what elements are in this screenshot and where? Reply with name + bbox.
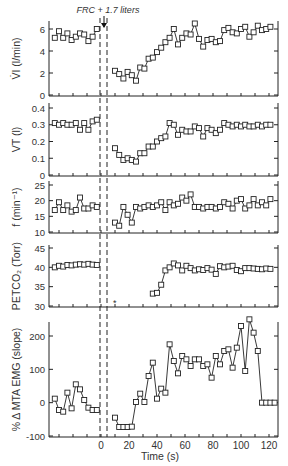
data-point [113, 415, 118, 420]
data-point [188, 32, 193, 37]
data-point [201, 44, 206, 49]
y-tick-label: 0.4 [32, 103, 45, 114]
data-point [78, 127, 83, 132]
figure: 0246V̇I (l/min)00.10.20.30.4VT (l)101520… [0, 0, 288, 466]
data-point [78, 387, 83, 392]
data-point [171, 122, 176, 127]
data-point [69, 406, 74, 411]
data-point [239, 324, 244, 329]
data-point [150, 360, 155, 365]
data-point [52, 208, 57, 213]
data-point [78, 195, 83, 200]
data-point [184, 357, 189, 362]
data-point [94, 204, 99, 209]
data-point [218, 39, 223, 44]
data-point [142, 66, 147, 71]
y-tick-label: 35 [34, 281, 45, 292]
y-tick-label: 30 [34, 301, 45, 312]
data-point [52, 35, 57, 40]
data-point [138, 391, 143, 396]
y-tick-label: 40 [34, 262, 45, 273]
data-point [82, 121, 87, 126]
panel-2: 00.10.20.30.4VT (l) [10, 103, 278, 181]
data-point [268, 24, 273, 29]
data-point [230, 365, 235, 370]
data-point [61, 409, 66, 414]
y-tick-label: 6 [40, 24, 45, 35]
data-point [159, 200, 164, 205]
x-tick-label: 100 [233, 440, 250, 451]
data-point [243, 24, 248, 29]
x-axis-ticks: 020406080100120 [98, 440, 278, 451]
data-point [163, 208, 168, 213]
data-point [155, 396, 160, 401]
data-point [94, 408, 99, 413]
data-point [218, 127, 223, 132]
data-point [239, 197, 244, 202]
data-point [113, 146, 118, 151]
x-tick-label: 80 [207, 440, 219, 451]
y-axis-label: f (min⁻¹) [10, 187, 22, 226]
data-point [121, 76, 126, 81]
data-point [65, 390, 70, 395]
y-tick-label: 200 [29, 331, 45, 342]
data-point [159, 282, 164, 287]
data-point [155, 290, 160, 295]
data-point [176, 132, 181, 137]
data-point [213, 354, 218, 359]
data-point [197, 36, 202, 41]
y-tick-label: 25 [34, 180, 45, 191]
data-point [272, 400, 277, 405]
y-tick-label: 0.1 [32, 153, 45, 164]
data-point [243, 369, 248, 374]
data-point [192, 21, 197, 26]
data-point [117, 223, 122, 228]
x-tick-label: 40 [151, 440, 163, 451]
data-point [234, 345, 239, 350]
y-tick-label: 45 [34, 243, 45, 254]
data-point [188, 192, 193, 197]
data-point [176, 263, 181, 268]
data-point [90, 34, 95, 39]
data-point [184, 198, 189, 203]
data-point [52, 396, 57, 401]
asterisk-marker: * [113, 298, 117, 308]
y-tick-label: -100 [26, 431, 45, 442]
x-tick-label: 120 [261, 440, 278, 451]
y-tick-label: 15 [34, 211, 45, 222]
x-tick-label: 0 [98, 440, 104, 451]
y-axis-label: PETCO₂ (Torr) [10, 242, 22, 310]
data-point [218, 362, 223, 367]
frc-annotation: FRC + 1.7 liters [77, 5, 140, 15]
data-point [251, 30, 256, 35]
data-point [150, 55, 155, 60]
data-point [57, 29, 62, 34]
data-point [268, 266, 273, 271]
data-point [94, 117, 99, 122]
y-tick-label: 0 [40, 90, 45, 101]
data-point [213, 271, 218, 276]
data-point [201, 134, 206, 139]
data-point [146, 374, 151, 379]
data-point [94, 27, 99, 32]
data-point [57, 200, 62, 205]
data-point [268, 197, 273, 202]
data-point [73, 208, 78, 213]
y-tick-label: 2 [40, 68, 45, 79]
data-point [197, 126, 202, 131]
data-point [94, 263, 99, 268]
panel-1: 0246V̇I (l/min) [10, 21, 278, 101]
y-axis-label: V̇I (l/min) [10, 38, 22, 80]
data-point [209, 375, 214, 380]
data-point [134, 78, 139, 83]
data-point [251, 330, 256, 335]
data-point [159, 45, 164, 50]
data-point [188, 364, 193, 369]
y-axis-label: % Δ MTA EMG (slope) [10, 328, 22, 432]
data-point [205, 362, 210, 367]
data-point [268, 122, 273, 127]
y-tick-label: 0.2 [32, 136, 45, 147]
data-point [65, 203, 70, 208]
data-point [65, 31, 70, 36]
data-point [167, 35, 172, 40]
